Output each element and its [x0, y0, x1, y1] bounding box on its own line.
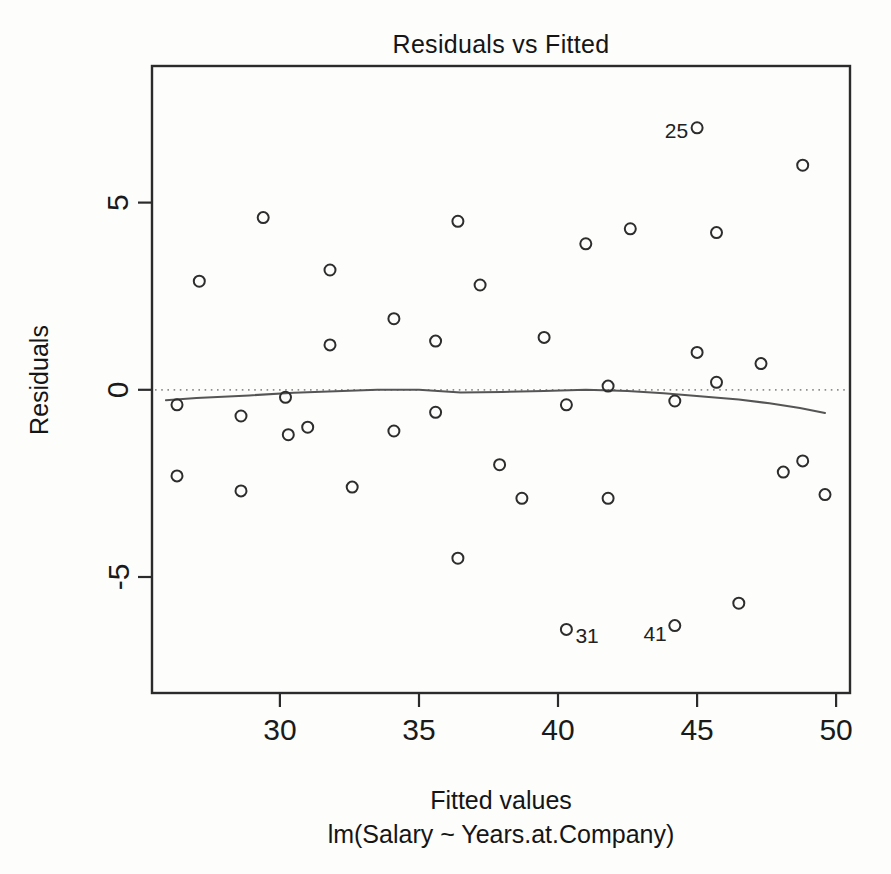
x-tick-label-30: 30 [263, 713, 296, 746]
data-point [325, 339, 336, 350]
data-point [347, 482, 358, 493]
x-tick-label-35: 35 [402, 713, 435, 746]
data-point [561, 624, 572, 635]
data-point [388, 313, 399, 324]
data-point [236, 411, 247, 422]
plot-border [152, 66, 850, 693]
data-point [692, 122, 703, 133]
y-tick-label-0: 0 [102, 381, 135, 398]
x-tick-label-45: 45 [680, 713, 713, 746]
data-point [625, 223, 636, 234]
data-point [494, 459, 505, 470]
data-point [756, 358, 767, 369]
data-point [692, 347, 703, 358]
data-point [797, 455, 808, 466]
data-point [258, 212, 269, 223]
data-point [820, 489, 831, 500]
data-point [669, 620, 680, 631]
residuals-vs-fitted-plot: 2531413035404550-505 [0, 0, 891, 874]
data-point [236, 485, 247, 496]
data-point [430, 336, 441, 347]
y-tick-label--5: -5 [102, 564, 135, 591]
x-axis-label: Fitted values [152, 786, 850, 815]
data-point [475, 280, 486, 291]
data-point [194, 276, 205, 287]
data-point [711, 227, 722, 238]
data-point [580, 238, 591, 249]
data-point [283, 429, 294, 440]
data-point [302, 422, 313, 433]
point-id-label-25: 25 [665, 119, 688, 142]
y-tick-label-5: 5 [102, 194, 135, 211]
model-formula-caption: lm(Salary ~ Years.at.Company) [152, 820, 850, 849]
data-point [603, 493, 614, 504]
data-point [172, 470, 183, 481]
data-point [452, 553, 463, 564]
data-point [516, 493, 527, 504]
data-point [325, 265, 336, 276]
data-point [778, 467, 789, 478]
data-point [430, 407, 441, 418]
data-point [452, 216, 463, 227]
data-point [733, 598, 744, 609]
data-point [561, 399, 572, 410]
data-point [539, 332, 550, 343]
data-point [172, 399, 183, 410]
data-point [797, 160, 808, 171]
scanned-diagnostic-plot-page: Residuals vs Fitted Residuals 2531413035… [0, 0, 891, 874]
point-id-label-41: 41 [643, 622, 666, 645]
point-id-label-31: 31 [575, 624, 598, 647]
x-tick-label-40: 40 [541, 713, 574, 746]
x-tick-label-50: 50 [819, 713, 852, 746]
data-point [669, 396, 680, 407]
data-point [388, 426, 399, 437]
lowess-smooth-curve [166, 390, 825, 413]
data-point [711, 377, 722, 388]
